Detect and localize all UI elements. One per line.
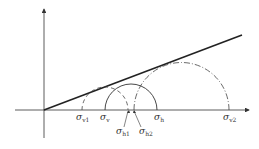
- circle-v-h: [105, 84, 157, 110]
- leader-h1: [124, 111, 128, 127]
- leader-h2: [134, 111, 141, 127]
- label-sigma-h1: σh1: [116, 127, 130, 137]
- label-sigma-v2: σv2: [223, 113, 236, 123]
- label-sigma-v1: σv1: [76, 113, 89, 123]
- circle-h2-v2: [134, 63, 229, 111]
- label-sigma-v: σv: [100, 113, 110, 123]
- label-sigma-h: σh: [154, 113, 164, 123]
- label-sigma-h2: σh2: [139, 127, 153, 137]
- failure-envelope-line: [44, 35, 242, 110]
